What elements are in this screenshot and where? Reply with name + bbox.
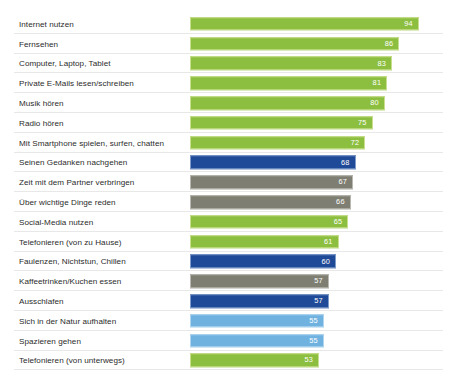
bar-value-label: 61 bbox=[324, 238, 338, 245]
bar: 81 bbox=[190, 77, 387, 91]
bar-value-label: 57 bbox=[314, 278, 328, 285]
category-label: Zeit mit dem Partner verbringen bbox=[19, 178, 134, 187]
category-label: Telefonieren (von unterwegs) bbox=[19, 356, 125, 365]
bar: 55 bbox=[190, 314, 324, 328]
chart-rows: Internet nutzen94Fernsehen86Computer, La… bbox=[0, 14, 449, 370]
bar-track: 75 bbox=[190, 116, 373, 130]
chart-row: Sich in der Natur aufhalten55 bbox=[0, 311, 449, 331]
chart-row: Private E-Mails lesen/schreiben81 bbox=[0, 73, 449, 93]
bar-track: 83 bbox=[190, 57, 392, 71]
chart-row: Social-Media nutzen65 bbox=[0, 212, 449, 232]
category-label: Über wichtige Dinge reden bbox=[19, 198, 116, 207]
bar-track: 68 bbox=[190, 156, 356, 170]
bar-track: 55 bbox=[190, 334, 324, 348]
category-label: Radio hören bbox=[19, 118, 64, 127]
category-label: Mit Smartphone spielen, surfen, chatten bbox=[19, 138, 164, 147]
chart-row: Radio hören75 bbox=[0, 113, 449, 133]
chart-row: Über wichtige Dinge reden66 bbox=[0, 192, 449, 212]
bar: 94 bbox=[190, 17, 419, 31]
bar: 60 bbox=[190, 255, 336, 269]
bar-value-label: 94 bbox=[404, 20, 418, 27]
bar-value-label: 57 bbox=[314, 297, 328, 304]
bar: 72 bbox=[190, 136, 365, 150]
bar: 67 bbox=[190, 176, 353, 190]
bar-value-label: 66 bbox=[336, 198, 350, 205]
bar-track: 60 bbox=[190, 255, 336, 269]
chart-row: Telefonieren (von zu Hause)61 bbox=[0, 232, 449, 252]
chart-row: Telefonieren (von unterwegs)53 bbox=[0, 351, 449, 371]
chart-row: Kaffeetrinken/Kuchen essen57 bbox=[0, 271, 449, 291]
category-label: Fernsehen bbox=[19, 39, 58, 48]
bar: 75 bbox=[190, 116, 373, 130]
category-label: Ausschlafen bbox=[19, 297, 64, 306]
bar-value-label: 55 bbox=[309, 337, 323, 344]
chart-row: Zeit mit dem Partner verbringen67 bbox=[0, 172, 449, 192]
bar-track: 65 bbox=[190, 215, 348, 229]
bar: 66 bbox=[190, 195, 351, 209]
chart-row: Seinen Gedanken nachgehen68 bbox=[0, 153, 449, 173]
chart-row: Computer, Laptop, Tablet83 bbox=[0, 54, 449, 74]
bar-value-label: 55 bbox=[309, 317, 323, 324]
bar: 65 bbox=[190, 215, 348, 229]
category-label: Seinen Gedanken nachgehen bbox=[19, 158, 127, 167]
category-label: Private E-Mails lesen/schreiben bbox=[19, 79, 134, 88]
bar: 55 bbox=[190, 334, 324, 348]
bar-value-label: 53 bbox=[304, 357, 318, 364]
category-label: Faulenzen, Nichtstun, Chillen bbox=[19, 257, 126, 266]
bar-track: 67 bbox=[190, 176, 353, 190]
chart-row: Spazieren gehen55 bbox=[0, 331, 449, 351]
category-label: Musik hören bbox=[19, 99, 64, 108]
bar-value-label: 68 bbox=[341, 159, 355, 166]
bar: 57 bbox=[190, 294, 329, 308]
bar-value-label: 80 bbox=[370, 99, 384, 106]
chart-row: Mit Smartphone spielen, surfen, chatten7… bbox=[0, 133, 449, 153]
row-separator bbox=[14, 369, 443, 370]
category-label: Spazieren gehen bbox=[19, 336, 81, 345]
bar-value-label: 65 bbox=[334, 218, 348, 225]
bar-value-label: 67 bbox=[339, 179, 353, 186]
bar-value-label: 72 bbox=[351, 139, 365, 146]
bar-track: 81 bbox=[190, 77, 387, 91]
bar-value-label: 60 bbox=[321, 258, 335, 265]
bar-track: 57 bbox=[190, 294, 329, 308]
bar: 86 bbox=[190, 37, 399, 51]
bar-track: 80 bbox=[190, 96, 385, 110]
category-label: Kaffeetrinken/Kuchen essen bbox=[19, 277, 121, 286]
chart-row: Ausschlafen57 bbox=[0, 291, 449, 311]
category-label: Social-Media nutzen bbox=[19, 217, 93, 226]
chart-row: Musik hören80 bbox=[0, 93, 449, 113]
chart-row: Internet nutzen94 bbox=[0, 14, 449, 34]
category-label: Sich in der Natur aufhalten bbox=[19, 316, 116, 325]
cropped-header-text bbox=[0, 0, 449, 9]
bar: 53 bbox=[190, 354, 319, 368]
category-label: Internet nutzen bbox=[19, 19, 74, 28]
bar-value-label: 83 bbox=[377, 60, 391, 67]
chart-row: Faulenzen, Nichtstun, Chillen60 bbox=[0, 252, 449, 272]
bar: 61 bbox=[190, 235, 339, 249]
bar-value-label: 86 bbox=[385, 40, 399, 47]
bar-track: 53 bbox=[190, 354, 319, 368]
bar-track: 94 bbox=[190, 17, 419, 31]
chart-row: Fernsehen86 bbox=[0, 34, 449, 54]
bar: 83 bbox=[190, 57, 392, 71]
category-label: Telefonieren (von zu Hause) bbox=[19, 237, 122, 246]
bar-value-label: 75 bbox=[358, 119, 372, 126]
bar-track: 55 bbox=[190, 314, 324, 328]
bar-track: 72 bbox=[190, 136, 365, 150]
horizontal-bar-chart: Internet nutzen94Fernsehen86Computer, La… bbox=[0, 0, 449, 378]
bar-value-label: 81 bbox=[373, 80, 387, 87]
bar-track: 57 bbox=[190, 275, 329, 289]
bar-track: 86 bbox=[190, 37, 399, 51]
bar: 80 bbox=[190, 96, 385, 110]
bar: 57 bbox=[190, 275, 329, 289]
bar: 68 bbox=[190, 156, 356, 170]
bar-track: 66 bbox=[190, 195, 351, 209]
bar-track: 61 bbox=[190, 235, 339, 249]
category-label: Computer, Laptop, Tablet bbox=[19, 59, 111, 68]
